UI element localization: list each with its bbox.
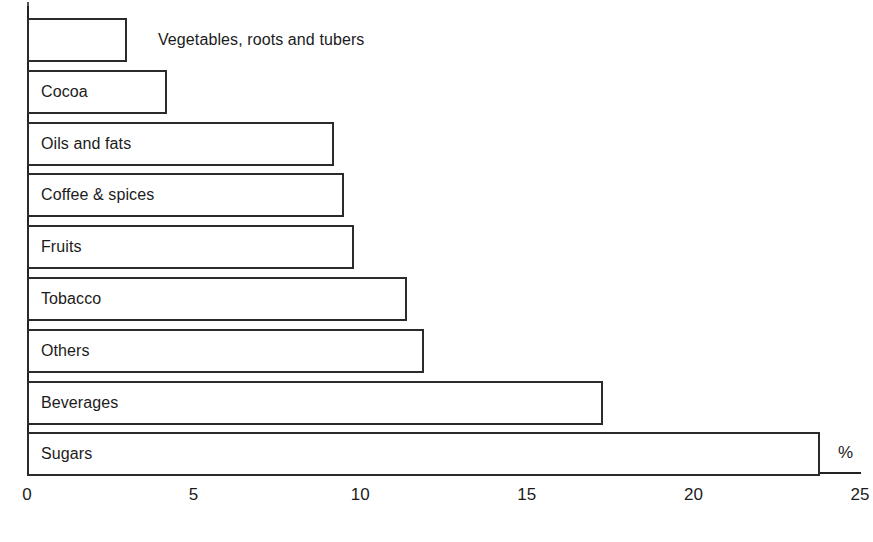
x-tick-label: 20 bbox=[684, 485, 703, 505]
bar-category-label: Tobacco bbox=[41, 277, 101, 321]
bar-category-label: Vegetables, roots and tubers bbox=[158, 18, 365, 62]
bar-row[interactable] bbox=[27, 432, 820, 476]
plot-area: 0510152025 % Vegetables, roots and tuber… bbox=[0, 0, 873, 542]
bar-row[interactable] bbox=[27, 18, 127, 62]
x-tick-label: 25 bbox=[851, 485, 870, 505]
x-tick-label: 10 bbox=[351, 485, 370, 505]
bar-category-label: Others bbox=[41, 329, 90, 373]
bar-category-label: Beverages bbox=[41, 381, 118, 425]
x-tick-label: 5 bbox=[189, 485, 198, 505]
x-tick-label: 0 bbox=[22, 485, 31, 505]
bar-category-label: Fruits bbox=[41, 225, 82, 269]
bar-category-label: Oils and fats bbox=[41, 122, 131, 166]
bar-chart: 0510152025 % Vegetables, roots and tuber… bbox=[0, 0, 873, 542]
bar-category-label: Coffee & spices bbox=[41, 173, 154, 217]
x-tick-label: 15 bbox=[517, 485, 536, 505]
bar-category-label: Sugars bbox=[41, 432, 92, 476]
bar-category-label: Cocoa bbox=[41, 70, 88, 114]
unit-label: % bbox=[838, 443, 853, 463]
bar[interactable] bbox=[27, 18, 127, 62]
bar[interactable] bbox=[27, 432, 820, 476]
